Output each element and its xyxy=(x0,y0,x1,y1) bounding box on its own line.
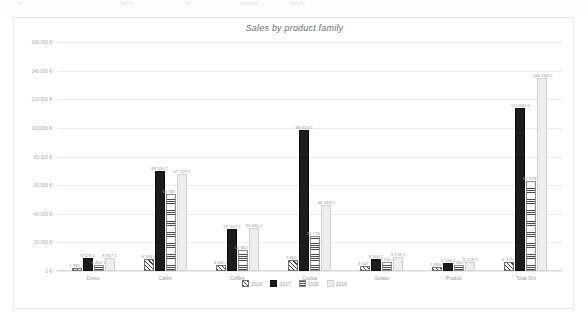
legend-label: 2018 xyxy=(308,281,319,287)
bar-slot: 98 515 € xyxy=(299,42,309,271)
legend-swatch-icon xyxy=(327,280,334,287)
bar[interactable]: 24 175 € xyxy=(310,236,320,271)
bar-slot: 7 960 € xyxy=(288,42,298,271)
bar[interactable]: 29 520 € xyxy=(227,229,237,271)
ghost-text-fragment: by xyxy=(185,0,191,6)
ghost-text-fragment: product xyxy=(240,0,259,6)
bar-value-label: 135 158 € xyxy=(533,73,553,78)
ghost-row-fragment xyxy=(260,317,270,323)
bar-slot: 30 066 € xyxy=(249,42,259,271)
ghost-row-fragment xyxy=(150,317,160,323)
y-axis-tick-label: 20 000 € xyxy=(10,240,56,245)
bar-slot: 6 500 € xyxy=(382,42,392,271)
bar-group: 3 647 €8 400 €6 500 €9 718 €Gelato xyxy=(346,42,418,271)
bar[interactable]: 6 228 € xyxy=(465,262,475,271)
plot-area: 160 000 €140 000 €120 000 €100 000 €80 0… xyxy=(57,42,562,271)
y-axis-tick-label: 60 000 € xyxy=(10,183,56,188)
y-axis-tick-label: 160 000 € xyxy=(10,40,56,45)
bars: 7 960 €98 515 €24 175 €46 349 € xyxy=(273,42,345,271)
chart-card: Sales by product family 160 000 €140 000… xyxy=(13,17,574,309)
bar-value-label: 9 718 € xyxy=(391,252,406,257)
bar-slot: 14 952 € xyxy=(238,42,248,271)
bar-slot: 5 536 € xyxy=(443,42,453,271)
bar[interactable]: 53 587 € xyxy=(166,194,176,271)
bar-slot: 3 647 € xyxy=(360,42,370,271)
bar-slot: 2 484 € xyxy=(432,42,442,271)
y-axis-tick-label: 100 000 € xyxy=(10,125,56,130)
legend-swatch-icon xyxy=(299,280,306,287)
chart-legend: 2016201720182019 xyxy=(14,280,575,287)
legend-item-2017[interactable]: 2017 xyxy=(270,280,290,287)
bar[interactable]: 6 271 € xyxy=(504,262,514,271)
y-axis-tick-label: 140 000 € xyxy=(10,68,56,73)
bars: 3 647 €8 400 €6 500 €9 718 € xyxy=(346,42,418,271)
legend-label: 2019 xyxy=(336,281,347,287)
bar-value-label: 6 228 € xyxy=(463,257,478,262)
bar[interactable]: 14 952 € xyxy=(238,250,248,271)
bar[interactable]: 67 729 € xyxy=(177,174,187,271)
legend-item-2018[interactable]: 2018 xyxy=(299,280,319,287)
ghost-text-fragment: family xyxy=(290,0,305,6)
bar-value-label: 67 729 € xyxy=(173,169,190,174)
bar-group: 1 881 €9 129 €4 450 €8 917 €Dress xyxy=(57,42,129,271)
bars: 6 271 €113 842 €62 579 €135 158 € xyxy=(490,42,562,271)
bar-value-label: 8 917 € xyxy=(102,253,117,258)
bar-group: 7 960 €98 515 €24 175 €46 349 €Cocoa xyxy=(273,42,345,271)
bar-slot: 113 842 € xyxy=(515,42,525,271)
legend-item-2016[interactable]: 2016 xyxy=(242,280,262,287)
bar[interactable]: 30 066 € xyxy=(249,228,259,271)
bar-slot: 69 550 € xyxy=(155,42,165,271)
legend-swatch-icon xyxy=(270,280,277,287)
bar-slot: 9 129 € xyxy=(83,42,93,271)
bars: 4 430 €29 520 €14 952 €30 066 € xyxy=(201,42,273,271)
bar[interactable]: 113 842 € xyxy=(515,108,525,271)
bar[interactable]: 6 500 € xyxy=(382,262,392,271)
bar[interactable]: 3 647 € xyxy=(360,266,370,271)
bar-slot: 67 729 € xyxy=(177,42,187,271)
bar-group: 8 354 €69 550 €53 587 €67 729 €Cafés xyxy=(129,42,201,271)
y-axis-tick-label: 120 000 € xyxy=(10,97,56,102)
bar-slot: 6 271 € xyxy=(504,42,514,271)
bar[interactable]: 7 960 € xyxy=(288,260,298,271)
bar[interactable]: 2 484 € xyxy=(432,267,442,271)
bar-group: 6 271 €113 842 €62 579 €135 158 €Total G… xyxy=(490,42,562,271)
bar-slot: 4 430 € xyxy=(216,42,226,271)
ghost-text-fragment: fx xyxy=(18,0,23,6)
bar[interactable]: 8 354 € xyxy=(144,259,154,271)
y-axis-tick-label: 40 000 € xyxy=(10,211,56,216)
bar[interactable]: 9 718 € xyxy=(393,257,403,271)
bar[interactable]: 46 349 € xyxy=(321,205,331,271)
bar[interactable]: 62 579 € xyxy=(526,181,536,271)
bar[interactable]: 4 340 € xyxy=(454,265,464,271)
bar-value-label: 46 349 € xyxy=(317,200,334,205)
bar-slot: 53 587 € xyxy=(166,42,176,271)
chart-title: Sales by product family xyxy=(14,23,575,33)
legend-item-2019[interactable]: 2019 xyxy=(327,280,347,287)
legend-label: 2016 xyxy=(251,281,262,287)
bar[interactable]: 8 917 € xyxy=(105,258,115,271)
bar-slot: 24 175 € xyxy=(310,42,320,271)
y-axis-tick-label: 0 € xyxy=(10,269,56,274)
bar-slot: 4 340 € xyxy=(454,42,464,271)
bar[interactable]: 98 515 € xyxy=(299,130,309,271)
y-axis-tick-label: 80 000 € xyxy=(10,154,56,159)
bars: 2 484 €5 536 €4 340 €6 228 € xyxy=(418,42,490,271)
bar-slot: 29 520 € xyxy=(227,42,237,271)
bar-slot: 1 881 € xyxy=(72,42,82,271)
bars: 1 881 €9 129 €4 450 €8 917 € xyxy=(57,42,129,271)
ghost-text-fragment: Sales xyxy=(120,0,134,6)
bar-value-label: 30 066 € xyxy=(245,223,262,228)
bar[interactable]: 1 881 € xyxy=(72,268,82,271)
bar[interactable]: 4 430 € xyxy=(216,265,226,271)
bar-slot: 9 718 € xyxy=(393,42,403,271)
bar[interactable]: 69 550 € xyxy=(155,171,165,271)
bar-slot: 6 228 € xyxy=(465,42,475,271)
bar[interactable]: 4 450 € xyxy=(94,265,104,271)
legend-label: 2017 xyxy=(279,281,290,287)
bar[interactable]: 135 158 € xyxy=(537,78,547,271)
bar-slot: 8 354 € xyxy=(144,42,154,271)
bar-slot: 46 349 € xyxy=(321,42,331,271)
ghost-row-fragment xyxy=(480,317,490,323)
ghost-row-fragment xyxy=(370,317,380,323)
bar-group: 4 430 €29 520 €14 952 €30 066 €Coffee xyxy=(201,42,273,271)
